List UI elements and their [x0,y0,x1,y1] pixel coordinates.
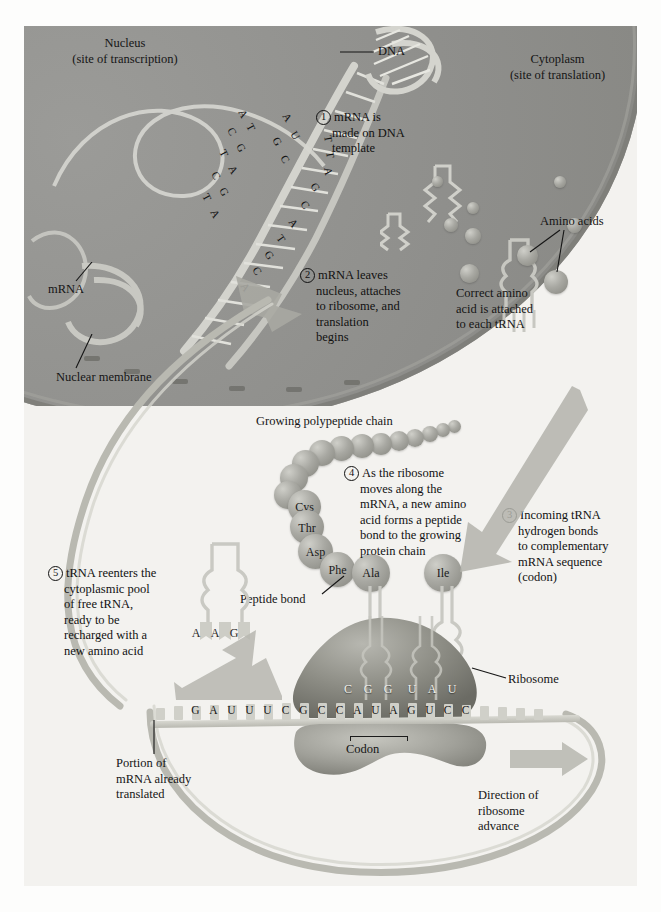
direction-line-1: Direction of [478,788,598,804]
portion-translated-label: Portion of mRNA already translated [116,756,236,803]
anticodon-base-5: A [424,682,440,697]
svg-text:T: T [217,147,231,159]
mrna-base-5: U [260,704,275,716]
correct-amino-acid-label: Correct amino acid is attached to each t… [456,286,586,333]
ribosome-label: Ribosome [508,672,559,688]
portion-line-3: translated [116,787,236,803]
svg-text:G: G [217,185,231,198]
ribosome-leader-line [468,666,512,688]
mrna-base-6: C [278,704,293,716]
nucleus-caption-line1: Nucleus [40,36,210,52]
mrna-base-10: A [350,704,365,716]
nucleus-caption-line2: (site of transcription) [40,52,210,68]
mrna-nucleus-leader-line [72,262,98,286]
nuclear-membrane-leader-line [72,334,102,372]
svg-text:C: C [225,125,239,137]
step-5-line-4: ready to be [48,613,208,629]
portion-line-2: mRNA already [116,772,236,788]
mrna-base-11: U [368,704,383,716]
correct-amino-line-3: to each tRNA [456,317,586,333]
svg-text:G: G [262,248,276,261]
direction-line-3: advance [478,819,598,835]
amino-acid-sphere [460,264,479,283]
cytoplasm-caption: Cytoplasm (site of translation) [470,52,645,83]
step-4-number: 4 [344,466,359,481]
anticodon-base-2: G [360,682,376,697]
step-5-line-3: of free tRNA, [48,597,208,613]
svg-text:A: A [208,207,222,220]
svg-text:C: C [209,169,223,181]
step-5-number: 5 [48,566,63,581]
cytoplasm-caption-line1: Cytoplasm [470,52,645,68]
svg-text:C: C [278,153,292,166]
mrna-base-8: C [314,704,329,716]
step-5-line-1: tRNA reenters the [66,566,156,580]
dna-leader-line [340,40,384,60]
cytoplasm-caption-line2: (site of translation) [470,68,645,84]
mrna-base-12: A [386,704,401,716]
amino-acids-leader-lines [520,228,580,284]
portion-line-1: Portion of [116,756,236,772]
svg-text:G: G [270,135,284,148]
mrna-base-14: U [422,704,437,716]
svg-text:A: A [226,163,240,176]
svg-text:G: G [308,180,322,193]
mrna-base-1: G [188,704,203,716]
polypeptide-bead [389,431,409,451]
amino-acid-sphere [465,228,481,244]
mrna-exit-arrow [232,270,312,340]
svg-text:G: G [234,141,248,154]
svg-text:A: A [286,216,300,229]
anticodon-base-4: U [404,682,420,697]
direction-line-2: ribosome [478,804,598,820]
svg-text:A: A [280,111,294,124]
mrna-base-4: U [242,704,257,716]
step-2-line-1: mRNA leaves [318,268,388,282]
nucleus-caption: Nucleus (site of transcription) [40,36,210,67]
anticodon-base-6: U [444,682,460,697]
step-5-line-2: cytoplasmic pool [48,582,208,598]
mrna-base-16: C [458,704,473,716]
step-1-number: 1 [316,110,331,125]
svg-text:A: A [236,107,250,120]
step-1: 1mRNA is made on DNA template [316,110,436,157]
step-1-line-3: template [316,141,436,157]
mrna-base-9: C [332,704,347,716]
correct-amino-line-1: Correct amino [456,286,586,302]
svg-text:C: C [298,198,312,211]
figure-canvas: A T C G T A C G T A A U G C T T A G C A [0,0,661,912]
mrna-base-13: G [404,704,419,716]
svg-text:A: A [322,166,335,176]
ribosome-small-subunit [290,722,490,784]
step-1-line-2: made on DNA [316,126,436,142]
mrna-base-15: C [440,704,455,716]
svg-text:T: T [200,191,214,203]
mrna-base-3: U [224,704,239,716]
residue-ala-label: Ala [352,566,390,581]
anticodon-base-3: G [380,682,396,697]
amino-acid-sphere [554,176,566,188]
polypeptide-bead [422,426,438,442]
nuclear-membrane-label: Nuclear membrane [56,370,151,386]
svg-text:T: T [274,232,288,245]
incoming-trna-arrow [438,386,588,576]
growing-polypeptide-label: Growing polypeptide chain [256,414,393,430]
trna-exit-arrow [170,630,290,700]
amino-acid-sphere [444,218,458,232]
portion-leader-line [150,720,166,758]
ribosome-direction-arrow [510,742,590,776]
correct-amino-line-2: acid is attached [456,302,586,318]
step-4-line-1: As the ribosome [362,466,444,480]
anticodon-base-1: C [340,682,356,697]
codon-bracket [350,736,408,741]
mrna-base-2: A [206,704,221,716]
svg-text:U: U [288,129,302,142]
direction-label: Direction of ribosome advance [478,788,598,835]
codon-label: Codon [346,742,379,758]
mrna-base-7: G [296,704,311,716]
amino-acid-sphere [467,202,479,214]
step-1-line-1: mRNA is [334,110,381,124]
svg-text:T: T [244,121,258,133]
amino-acid-sphere [432,176,443,187]
